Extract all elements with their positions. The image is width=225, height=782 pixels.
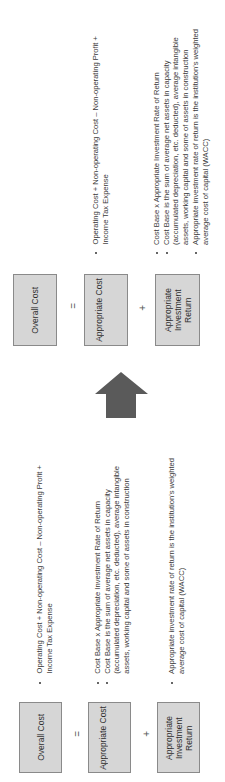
bottom-plus-sign: + xyxy=(142,731,152,737)
bottom-appropriate-cost-box: Appropriate Cost xyxy=(88,702,131,773)
bottom-overall-cost-box: Overall Cost xyxy=(19,702,62,773)
arrow-shape xyxy=(95,372,148,418)
bottom-appropriate-cost-label: Appropriate Cost xyxy=(98,706,122,770)
bottom-equals-sign: = xyxy=(73,731,83,737)
bottom-operating-text: Operating Cost + Non-operating Cost – No… xyxy=(35,465,54,674)
bottom-appropriate-return-box: Appropriate Investment Return xyxy=(157,702,200,773)
bottom-wacc-text: Appropriate investment rate of return is… xyxy=(167,458,186,674)
bottom-cost-base-text: Cost Base x Appropriate Investment Rate … xyxy=(93,466,132,674)
bottom-appropriate-return-label: Appropriate Investment Return xyxy=(164,713,194,763)
bottom-overall-cost-label: Overall Cost xyxy=(36,714,46,761)
